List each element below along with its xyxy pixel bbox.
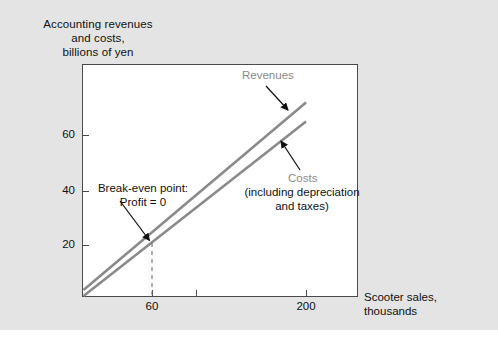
y-tick-mark-60 xyxy=(82,135,89,136)
series-sublabel-costs-line1: (including depreciation xyxy=(244,186,360,200)
y-tick-label-40: 40 xyxy=(41,184,75,196)
break-even-annotation-line2: Profit = 0 xyxy=(88,196,198,210)
y-tick-mark-20 xyxy=(82,245,89,246)
x-axis-title: Scooter sales, thousands xyxy=(364,290,494,318)
series-label-revenues: Revenues xyxy=(242,69,294,81)
y-axis-title: Accounting revenues and costs, billions … xyxy=(18,17,178,59)
y-axis-title-line2: and costs, xyxy=(18,31,178,45)
y-tick-label-20: 20 xyxy=(41,238,75,250)
break-even-annotation-line1: Break-even point: xyxy=(88,182,198,196)
x-axis-title-line2: thousands xyxy=(364,304,494,318)
x-tick-mark-200 xyxy=(306,290,307,297)
figure-canvas: Accounting revenues and costs, billions … xyxy=(0,0,498,352)
x-tick-mark-minor xyxy=(196,290,197,297)
series-sublabel-costs: (including depreciation and taxes) xyxy=(244,186,360,213)
x-tick-label-200: 200 xyxy=(286,300,326,312)
page-bottom-margin xyxy=(0,330,498,352)
y-axis-title-line1: Accounting revenues xyxy=(18,17,178,31)
y-tick-label-60: 60 xyxy=(41,128,75,140)
break-even-annotation: Break-even point: Profit = 0 xyxy=(88,182,198,209)
x-tick-mark-60 xyxy=(152,290,153,297)
y-axis-title-line3: billions of yen xyxy=(18,45,178,59)
x-axis-title-line1: Scooter sales, xyxy=(364,290,494,304)
x-tick-label-60: 60 xyxy=(132,300,172,312)
series-sublabel-costs-line2: and taxes) xyxy=(244,200,360,214)
series-label-costs: Costs xyxy=(288,172,317,184)
